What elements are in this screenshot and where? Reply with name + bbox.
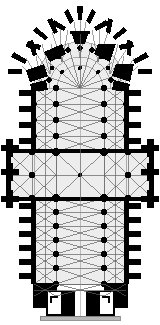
west-steps <box>40 316 120 320</box>
cathedral-floor-plan: Gothic cathedral ground plan apse at top… <box>0 0 160 325</box>
plan-drawing <box>0 0 160 325</box>
